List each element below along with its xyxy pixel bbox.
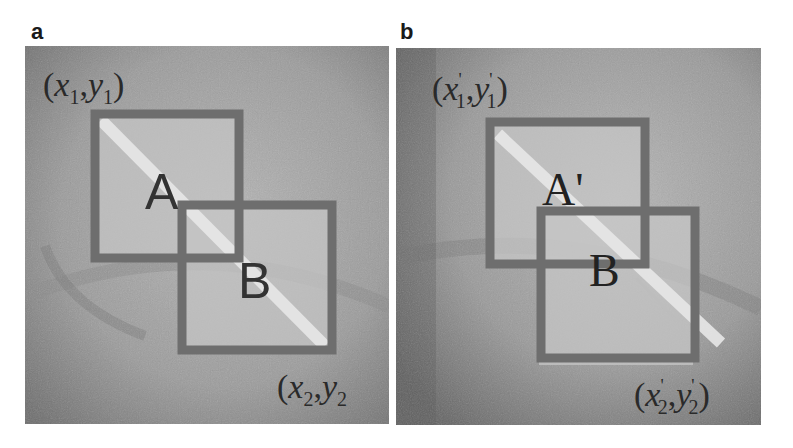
coord-top-left: (x1,y1)	[43, 66, 124, 108]
box-label-b: B	[589, 245, 620, 296]
panel-label-b: b	[400, 21, 413, 43]
panel-b-image: A' B (x'1,y'1) (x'2,y'2)	[396, 48, 761, 425]
box-label-b: B	[238, 253, 271, 309]
box-label-a-prime: A'	[542, 164, 584, 215]
coord-top-left-prime: (x'1,y'1)	[432, 70, 508, 112]
coord-bottom-right-prime: (x'2,y'2)	[634, 376, 710, 418]
panel-a-image: A B (x1,y1) (x2,y2	[25, 46, 389, 424]
panel-label-a: a	[31, 21, 43, 43]
box-label-a: A	[145, 164, 179, 220]
